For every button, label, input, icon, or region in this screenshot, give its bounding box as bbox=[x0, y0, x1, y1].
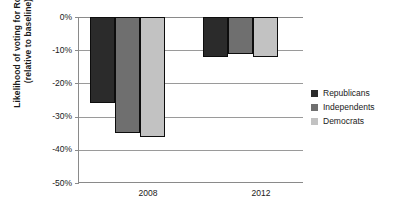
legend-label-democrats: Democrats bbox=[323, 116, 364, 126]
x-tick-label-2008: 2008 bbox=[118, 188, 178, 198]
y-tick-label-30: -30% bbox=[36, 112, 72, 121]
y-axis-title-line-2: (relative to baseline) bbox=[23, 0, 34, 83]
legend-swatch-democrats bbox=[311, 118, 318, 125]
x-tick-label-2012: 2012 bbox=[231, 188, 291, 198]
y-tick-mark-40 bbox=[75, 150, 79, 151]
bar-2012-republicans[interactable] bbox=[203, 17, 228, 57]
y-tick-label-20: -20% bbox=[36, 79, 72, 88]
legend-swatch-republicans bbox=[311, 90, 318, 97]
y-tick-label-50: -50% bbox=[36, 179, 72, 188]
y-tick-mark-0 bbox=[75, 17, 79, 18]
bar-2008-independents[interactable] bbox=[115, 17, 140, 133]
legend-item-independents[interactable]: Independents bbox=[311, 102, 375, 112]
legend-label-republicans: Republicans bbox=[323, 88, 370, 98]
y-tick-label-0: 0% bbox=[36, 13, 72, 22]
gridline-40 bbox=[79, 150, 303, 151]
y-tick-mark-50 bbox=[75, 183, 79, 184]
bar-chart: Likelihood of voting for Romney (relativ… bbox=[0, 0, 394, 219]
y-tick-mark-10 bbox=[75, 50, 79, 51]
chart-legend: Republicans Independents Democrats bbox=[311, 88, 375, 130]
y-tick-mark-30 bbox=[75, 117, 79, 118]
legend-item-democrats[interactable]: Democrats bbox=[311, 116, 375, 126]
legend-label-independents: Independents bbox=[323, 102, 375, 112]
gridline-30 bbox=[79, 117, 303, 118]
plot-area bbox=[78, 17, 303, 183]
bar-2008-democrats[interactable] bbox=[140, 17, 165, 137]
y-tick-mark-20 bbox=[75, 83, 79, 84]
y-axis-title: Likelihood of voting for Romney (relativ… bbox=[8, 0, 38, 126]
legend-item-republicans[interactable]: Republicans bbox=[311, 88, 375, 98]
y-tick-label-40: -40% bbox=[36, 145, 72, 154]
bar-2012-independents[interactable] bbox=[228, 17, 253, 54]
y-axis-title-line-1: Likelihood of voting for Romney bbox=[12, 0, 23, 108]
bar-2012-democrats[interactable] bbox=[253, 17, 278, 57]
bar-2008-republicans[interactable] bbox=[90, 17, 115, 103]
y-tick-label-10: -10% bbox=[36, 46, 72, 55]
legend-swatch-independents bbox=[311, 104, 318, 111]
